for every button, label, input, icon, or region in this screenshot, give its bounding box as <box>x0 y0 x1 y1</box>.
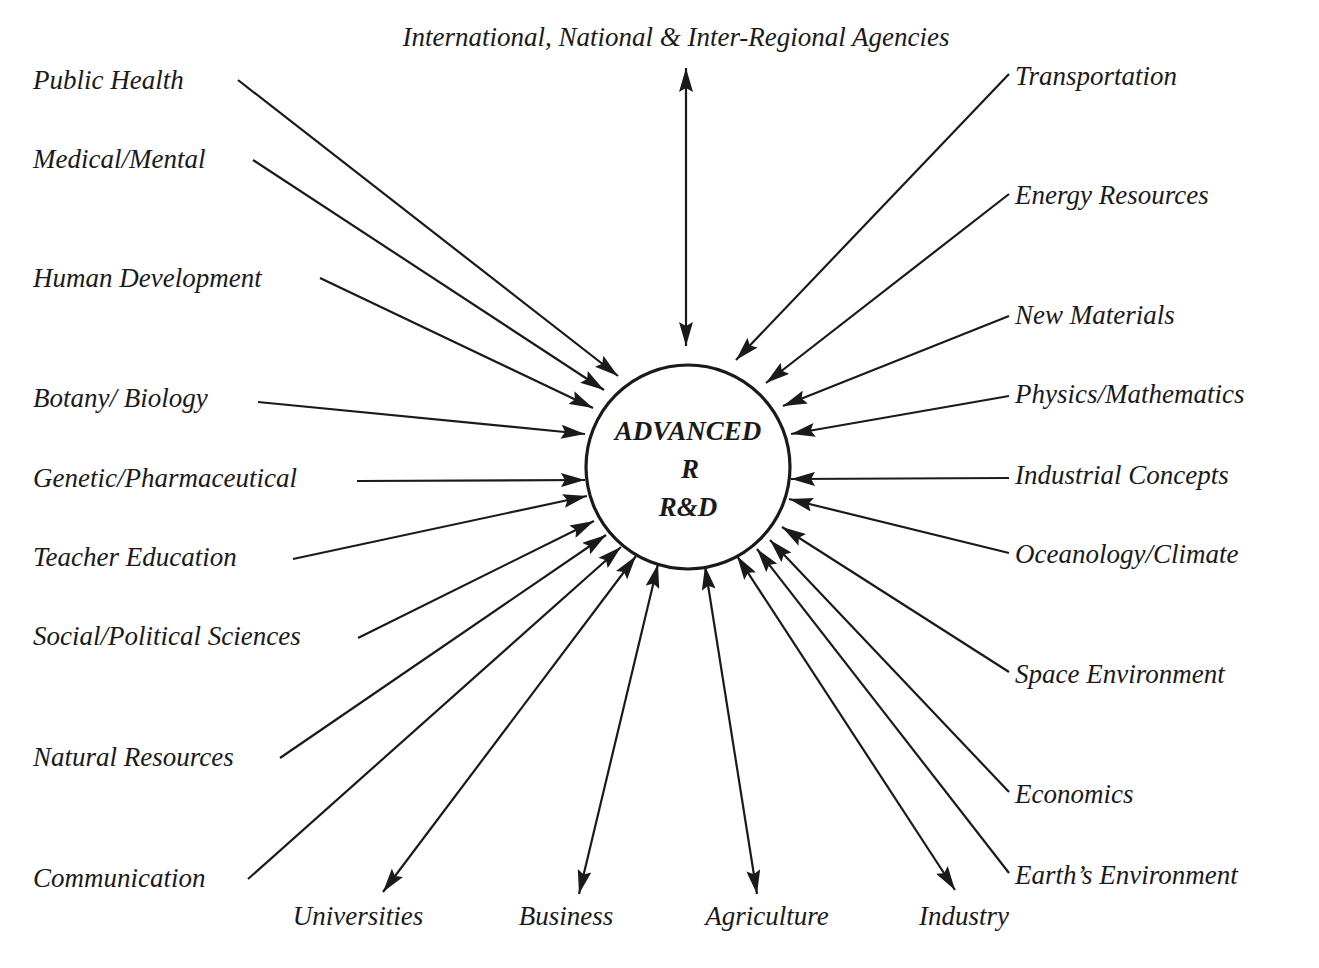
node-label: Public Health <box>32 65 184 95</box>
bidirectional-arrow <box>705 566 757 894</box>
node-label: Oceanology/Climate <box>1015 539 1238 569</box>
node-label: Genetic/Pharmaceutical <box>33 463 297 493</box>
node-label: Transportation <box>1015 61 1177 91</box>
rnd-hub-diagram: ADVANCED R R&D International, National &… <box>0 0 1319 968</box>
bidirectional-arrow <box>737 556 955 890</box>
inbound-arrow <box>238 80 618 376</box>
inbound-arrow <box>770 540 1009 792</box>
node-teacher-education: Teacher Education <box>33 496 587 572</box>
node-label: Natural Resources <box>32 742 234 772</box>
node-label: Social/Political Sciences <box>33 621 301 651</box>
node-industry: Industry <box>737 556 1009 931</box>
inbound-arrow <box>766 194 1009 383</box>
node-label: Physics/Mathematics <box>1014 379 1244 409</box>
node-label: Economics <box>1014 779 1133 809</box>
inbound-arrow <box>757 549 1009 873</box>
node-label: Industrial Concepts <box>1014 460 1229 490</box>
hub-label-line3: R&D <box>658 492 718 522</box>
node-label: Medical/Mental <box>32 144 205 174</box>
node-label: Industry <box>918 901 1009 931</box>
node-label: Communication <box>33 863 206 893</box>
node-industrial-concepts: Industrial Concepts <box>791 460 1229 490</box>
node-label: Earth’s Environment <box>1014 860 1239 890</box>
inbound-arrow <box>782 527 1009 672</box>
inbound-arrow <box>258 402 585 434</box>
hub-label-line2: R <box>680 454 699 484</box>
inbound-arrow <box>248 547 621 879</box>
node-communication: Communication <box>33 547 621 893</box>
inbound-arrow <box>791 396 1009 434</box>
inbound-arrow <box>253 160 604 390</box>
node-agriculture: Agriculture <box>703 566 828 931</box>
inbound-arrow <box>357 480 585 481</box>
bidirectional-arrow <box>579 564 658 894</box>
node-label: New Materials <box>1014 300 1175 330</box>
inbound-arrow <box>789 499 1009 553</box>
node-social-political-sciences: Social/Political Sciences <box>33 521 594 651</box>
node-label: Space Environment <box>1015 659 1226 689</box>
inbound-arrow <box>320 278 593 408</box>
node-botany-biology: Botany/ Biology <box>33 383 585 434</box>
node-label: International, National & Inter-Regional… <box>401 22 949 52</box>
node-earths-environment: Earth’s Environment <box>757 549 1239 890</box>
node-international-agencies: International, National & Inter-Regional… <box>401 22 949 346</box>
node-label: Universities <box>293 901 423 931</box>
node-label: Botany/ Biology <box>33 383 208 413</box>
node-label: Energy Resources <box>1014 180 1209 210</box>
inbound-arrow <box>783 316 1009 406</box>
hub-label-line1: ADVANCED <box>613 416 762 446</box>
inbound-arrow <box>293 496 587 559</box>
node-label: Agriculture <box>703 901 828 931</box>
node-oceanology-climate: Oceanology/Climate <box>789 499 1238 569</box>
inbound-arrow <box>736 74 1009 360</box>
node-label: Human Development <box>32 263 263 293</box>
inbound-arrow <box>280 535 606 758</box>
node-genetic-pharmaceutical: Genetic/Pharmaceutical <box>33 463 585 493</box>
node-label: Teacher Education <box>33 542 237 572</box>
inbound-arrow <box>791 478 1009 479</box>
node-public-health: Public Health <box>32 65 618 376</box>
hub-node: ADVANCED R R&D <box>586 365 790 569</box>
node-physics-mathematics: Physics/Mathematics <box>791 379 1244 434</box>
node-energy-resources: Energy Resources <box>766 180 1209 383</box>
node-label: Business <box>519 901 614 931</box>
